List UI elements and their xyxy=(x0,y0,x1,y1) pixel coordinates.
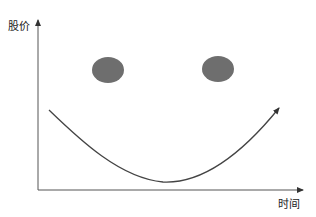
left-eye xyxy=(92,57,124,83)
diagram-canvas xyxy=(0,0,316,217)
y-axis-label: 股价 xyxy=(8,17,30,33)
smile-curve xyxy=(49,108,279,182)
x-axis-label: 时间 xyxy=(278,195,300,211)
right-eye xyxy=(202,56,234,82)
